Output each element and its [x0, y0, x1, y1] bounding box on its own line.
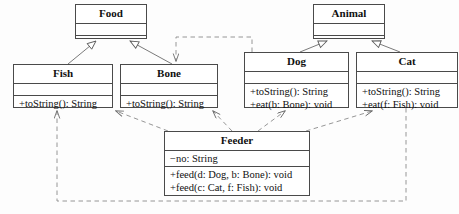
class-box-feeder[interactable]: Feeder −no: String +feed(d: Dog, b: Bone…	[164, 131, 310, 196]
class-name-animal: Animal	[314, 5, 384, 24]
edge-dog-to-bone	[176, 37, 252, 61]
class-box-dog[interactable]: Dog +toString(): String +eat(b: Bone): v…	[244, 52, 349, 108]
class-name-cat: Cat	[357, 53, 457, 72]
attribute-row: −no: String	[170, 152, 304, 165]
class-box-cat[interactable]: Cat +toString(): String +eat(f: Fish): v…	[356, 52, 458, 108]
class-methods-cat: +toString(): String +eat(f: Fish): void	[357, 84, 457, 107]
class-box-food[interactable]: Food	[75, 4, 147, 39]
method-row: +feed(c: Cat, f: Fish): void	[170, 181, 304, 194]
edge-feeder-to-cat	[306, 111, 372, 131]
method-row: +eat(f: Fish): void	[362, 98, 452, 111]
class-attributes-food	[76, 24, 146, 36]
edge-feeder-to-dog	[258, 111, 285, 131]
edge-feeder-to-fish	[116, 111, 168, 131]
class-methods-feeder: +feed(d: Dog, b: Bone): void +feed(c: Ca…	[165, 167, 309, 195]
class-methods-animal	[314, 36, 384, 48]
class-attributes-fish	[14, 84, 112, 96]
class-attributes-dog	[245, 72, 348, 84]
class-name-feeder: Feeder	[165, 132, 309, 151]
class-name-bone: Bone	[121, 65, 217, 84]
class-box-bone[interactable]: Bone +toString(): String	[120, 64, 218, 108]
method-row: +eat(b: Bone): void	[250, 98, 343, 111]
class-methods-bone: +toString(): String	[121, 96, 217, 108]
class-attributes-feeder: −no: String	[165, 151, 309, 167]
class-name-food: Food	[76, 5, 146, 24]
class-box-animal[interactable]: Animal	[313, 4, 385, 39]
method-row: +toString(): String	[250, 85, 343, 98]
class-attributes-bone	[121, 84, 217, 96]
method-row: +toString(): String	[19, 97, 107, 110]
method-row: +toString(): String	[126, 97, 212, 110]
class-name-dog: Dog	[245, 53, 348, 72]
class-attributes-cat	[357, 72, 457, 84]
edge-feeder-to-bone	[213, 111, 232, 131]
class-box-fish[interactable]: Fish +toString(): String	[13, 64, 113, 108]
method-row: +feed(d: Dog, b: Bone): void	[170, 168, 304, 181]
class-methods-food	[76, 36, 146, 48]
class-methods-fish: +toString(): String	[14, 96, 112, 108]
class-methods-dog: +toString(): String +eat(b: Bone): void	[245, 84, 348, 107]
uml-class-diagram: Food Animal Fish +toString(): String Bon…	[0, 0, 459, 214]
class-attributes-animal	[314, 24, 384, 36]
class-name-fish: Fish	[14, 65, 112, 84]
method-row: +toString(): String	[362, 85, 452, 98]
